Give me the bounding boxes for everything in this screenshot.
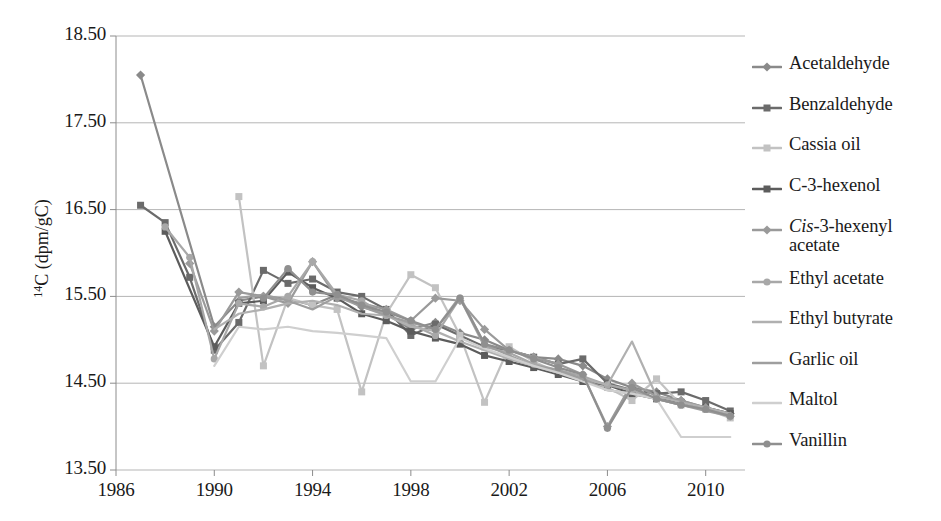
series-marker xyxy=(678,388,685,395)
series-marker xyxy=(358,388,365,395)
series-marker xyxy=(555,364,562,371)
series-marker xyxy=(162,223,169,230)
series-marker xyxy=(407,328,414,335)
legend-label: Cis-3-hexenylacetate xyxy=(789,217,893,255)
gridlines xyxy=(116,36,745,470)
legend-swatch-icon xyxy=(752,100,782,116)
series-marker xyxy=(727,413,734,420)
legend-item[interactable]: Acetaldehyde xyxy=(752,54,890,75)
series-marker xyxy=(481,399,488,406)
legend-item[interactable]: Benzaldehyde xyxy=(752,95,893,116)
series-line xyxy=(165,231,730,413)
series-marker xyxy=(383,308,390,315)
legend-item[interactable]: Cassia oil xyxy=(752,135,860,156)
series-marker xyxy=(628,397,635,404)
series-marker xyxy=(481,341,488,348)
chart-figure: 18.5017.5016.5015.5014.5013.50 198619901… xyxy=(0,0,941,521)
y-axis-title: 14C (dpm/gC) xyxy=(32,149,53,349)
series-marker xyxy=(579,371,586,378)
series-marker xyxy=(481,352,488,359)
legend-swatch-icon xyxy=(752,436,782,452)
series-marker xyxy=(284,280,291,287)
series-marker xyxy=(309,288,316,295)
series-marker xyxy=(579,355,586,362)
y-tick-label: 13.50 xyxy=(28,457,106,479)
x-tick-label: 1986 xyxy=(76,479,156,501)
y-tick-label: 14.50 xyxy=(28,370,106,392)
legend-swatch-icon xyxy=(752,59,782,75)
y-axis-title-superscript: 14 xyxy=(31,286,45,298)
legend-item[interactable]: Vanillin xyxy=(752,431,847,452)
y-tick-label: 17.50 xyxy=(28,110,106,132)
series-marker xyxy=(260,267,267,274)
legend-swatch-icon xyxy=(752,395,782,411)
series-marker xyxy=(407,271,414,278)
series-marker xyxy=(506,347,513,354)
series-marker xyxy=(407,317,414,324)
x-tick-label: 2010 xyxy=(666,479,746,501)
series-marker xyxy=(309,276,316,283)
legend-item[interactable]: Garlic oil xyxy=(752,350,858,371)
series-marker xyxy=(309,258,316,265)
series-marker xyxy=(284,265,291,272)
series-marker xyxy=(653,375,660,382)
legend-label: Garlic oil xyxy=(789,350,858,369)
series-marker xyxy=(530,355,537,362)
legend-swatch-icon xyxy=(752,274,782,290)
legend-label: Cassia oil xyxy=(789,135,860,154)
series-marker xyxy=(260,362,267,369)
series-marker xyxy=(235,300,242,307)
series-marker xyxy=(186,254,193,261)
x-tick-label: 1998 xyxy=(371,479,451,501)
series-marker xyxy=(628,384,635,391)
legend-swatch-icon xyxy=(752,140,782,156)
x-tick-label: 2006 xyxy=(567,479,647,501)
legend-swatch-icon xyxy=(752,314,782,330)
legend-label: Vanillin xyxy=(789,431,847,450)
legend-swatch-icon xyxy=(752,355,782,371)
legend-label: Ethyl acetate xyxy=(789,269,884,288)
legend-item[interactable]: Ethyl butyrate xyxy=(752,309,893,330)
legend-label: Ethyl butyrate xyxy=(789,309,893,328)
data-series-group xyxy=(136,70,735,437)
legend-item[interactable]: Maltol xyxy=(752,390,838,411)
data-series xyxy=(235,193,733,421)
series-marker xyxy=(653,395,660,402)
y-tick-label: 18.50 xyxy=(28,23,106,45)
series-marker xyxy=(678,401,685,408)
series-marker xyxy=(334,291,341,298)
series-marker xyxy=(235,319,242,326)
legend-swatch-icon xyxy=(752,222,782,238)
legend-label: Acetaldehyde xyxy=(789,54,890,73)
series-marker xyxy=(604,425,611,432)
series-marker xyxy=(702,406,709,413)
x-tick-label: 1990 xyxy=(174,479,254,501)
series-marker xyxy=(358,301,365,308)
x-tick-label: 1994 xyxy=(273,479,353,501)
series-marker xyxy=(137,202,144,209)
series-marker xyxy=(260,295,267,302)
series-marker xyxy=(136,70,145,79)
series-marker xyxy=(432,326,439,333)
x-tick-label: 2002 xyxy=(469,479,549,501)
series-marker xyxy=(432,284,439,291)
series-marker xyxy=(235,193,242,200)
legend-label: Maltol xyxy=(789,390,838,409)
legend-item[interactable]: Ethyl acetate xyxy=(752,269,884,290)
legend-label: Benzaldehyde xyxy=(789,95,893,114)
legend-item[interactable]: Cis-3-hexenylacetate xyxy=(752,217,893,255)
series-marker xyxy=(456,295,463,302)
series-marker xyxy=(186,274,193,281)
legend-label: C-3-hexenol xyxy=(789,176,880,195)
y-axis-title-text: C (dpm/gC) xyxy=(32,199,52,286)
series-marker xyxy=(284,293,291,300)
legend-item[interactable]: C-3-hexenol xyxy=(752,176,880,197)
data-series xyxy=(137,202,734,415)
legend-swatch-icon xyxy=(752,181,782,197)
